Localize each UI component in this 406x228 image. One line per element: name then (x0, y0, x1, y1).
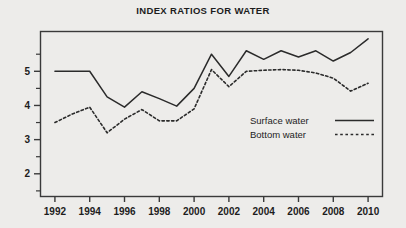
x-tick-label: 2002 (218, 206, 241, 217)
y-tick-label: 5 (24, 66, 30, 77)
legend-label-bottom-water: Bottom water (250, 129, 306, 140)
line-chart-plot: 2345 19921994199619982000200220042006200… (0, 0, 406, 228)
y-axis-tick-labels: 2345 (24, 66, 30, 179)
plot-border (41, 32, 383, 197)
x-tick-label: 2010 (357, 206, 380, 217)
x-tick-label: 2006 (287, 206, 310, 217)
chart-container: INDEX RATIOS FOR WATER 2345 199219941996… (0, 0, 406, 228)
series-line-bottom-water (55, 70, 368, 133)
x-tick-label: 2004 (253, 206, 276, 217)
plot-frame (41, 32, 383, 197)
y-tick-label: 4 (24, 100, 30, 111)
x-tick-label: 2000 (183, 206, 206, 217)
y-tick-label: 3 (24, 134, 30, 145)
x-tick-label: 1998 (148, 206, 171, 217)
chart-legend: Surface waterBottom water (250, 115, 374, 140)
x-tick-label: 1996 (113, 206, 136, 217)
data-series-group (55, 39, 368, 133)
y-tick-label: 2 (24, 168, 30, 179)
x-tick-label: 1992 (44, 206, 67, 217)
x-axis-tick-labels: 1992199419961998200020022004200620082010 (44, 206, 380, 217)
x-tick-label: 1994 (79, 206, 102, 217)
x-tick-label: 2008 (322, 206, 345, 217)
legend-label-surface-water: Surface water (250, 115, 309, 126)
series-line-surface-water (55, 39, 368, 107)
